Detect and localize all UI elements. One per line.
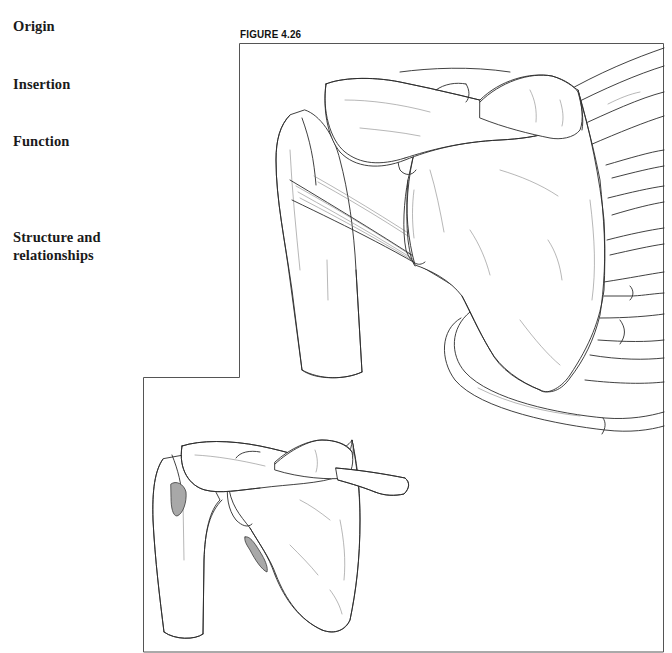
inset-shoulder-illustration — [0, 0, 672, 653]
